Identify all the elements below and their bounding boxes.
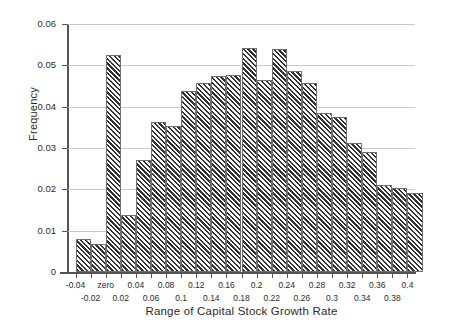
histogram-bar <box>121 215 136 272</box>
x-tick-mark <box>302 273 303 278</box>
x-tick-mark <box>407 273 408 278</box>
y-tick-label: 0.05 <box>14 60 56 69</box>
x-tick-mark <box>151 273 152 278</box>
histogram-bar <box>136 160 151 272</box>
x-tick-mark <box>287 273 288 278</box>
x-tick-mark <box>91 273 92 278</box>
y-tick-label: 0.06 <box>14 19 56 28</box>
histogram-bar <box>317 113 332 272</box>
x-tick-label: 0.06 <box>143 294 160 303</box>
x-tick-label: -0.02 <box>81 294 100 303</box>
x-tick-label: 0.36 <box>369 281 386 290</box>
x-tick-mark <box>347 273 348 278</box>
x-tick-mark <box>332 273 333 278</box>
x-tick-label: 0.1 <box>175 294 187 303</box>
x-tick-mark <box>362 273 363 278</box>
histogram-bar <box>332 117 347 272</box>
y-tick-label: 0 <box>14 267 56 276</box>
x-tick-mark <box>272 273 273 278</box>
y-tick-label: 0.02 <box>14 184 56 193</box>
histogram-bar <box>76 239 91 272</box>
x-tick-label: 0.34 <box>354 294 371 303</box>
x-tick-label: 0.16 <box>218 281 235 290</box>
histogram-bar <box>407 193 422 272</box>
histogram-bar <box>287 71 302 272</box>
y-tick-mark <box>62 272 68 273</box>
x-tick-label: 0.4 <box>402 281 414 290</box>
histogram-bar <box>166 126 181 272</box>
x-tick-mark <box>106 273 107 278</box>
y-tick-label: 0.01 <box>14 226 56 235</box>
x-tick-label: zero <box>97 281 114 290</box>
x-tick-label: 0.3 <box>326 294 338 303</box>
x-tick-mark <box>196 273 197 278</box>
x-tick-mark <box>242 273 243 278</box>
x-tick-mark <box>211 273 212 278</box>
histogram-figure: Frequency 00.010.020.030.040.050.06 -0.0… <box>0 0 453 330</box>
histogram-bar <box>392 188 407 272</box>
histogram-bar <box>226 75 241 272</box>
histogram-bar <box>377 185 392 272</box>
histogram-bar <box>196 83 211 272</box>
x-tick-mark <box>166 273 167 278</box>
y-tick-label: 0.03 <box>14 143 56 152</box>
histogram-bar <box>347 143 362 272</box>
histogram-bar <box>151 122 166 272</box>
x-tick-label: 0.2 <box>251 281 263 290</box>
histogram-bar <box>362 152 377 272</box>
gridline <box>68 24 415 25</box>
histogram-bar <box>302 83 317 272</box>
x-tick-label: 0.08 <box>158 281 175 290</box>
x-tick-mark <box>377 273 378 278</box>
histogram-bar <box>211 76 226 272</box>
x-tick-label: 0.28 <box>309 281 326 290</box>
x-tick-label: 0.18 <box>233 294 250 303</box>
histogram-bar <box>272 49 287 272</box>
x-tick-label: 0.26 <box>294 294 311 303</box>
x-tick-mark <box>76 273 77 278</box>
histogram-bar <box>91 244 106 272</box>
histogram-bar <box>106 55 121 272</box>
x-tick-mark <box>226 273 227 278</box>
histogram-bar <box>181 91 196 272</box>
x-axis-title: Range of Capital Stock Growth Rate <box>68 305 415 317</box>
x-tick-label: 0.14 <box>203 294 220 303</box>
histogram-bar <box>257 80 272 272</box>
y-tick-label: 0.04 <box>14 102 56 111</box>
x-tick-mark <box>257 273 258 278</box>
x-tick-mark <box>136 273 137 278</box>
histogram-bar <box>242 48 257 272</box>
x-tick-label: 0.22 <box>263 294 280 303</box>
x-tick-label: 0.02 <box>113 294 130 303</box>
x-tick-label: 0.24 <box>278 281 295 290</box>
x-tick-label: 0.04 <box>128 281 145 290</box>
x-tick-mark <box>121 273 122 278</box>
x-tick-label: 0.32 <box>339 281 356 290</box>
x-tick-label: 0.12 <box>188 281 205 290</box>
x-tick-mark <box>317 273 318 278</box>
x-tick-mark <box>181 273 182 278</box>
x-tick-mark <box>392 273 393 278</box>
x-tick-label: 0.38 <box>384 294 401 303</box>
plot-area <box>68 24 415 272</box>
x-tick-label: -0.04 <box>66 281 85 290</box>
